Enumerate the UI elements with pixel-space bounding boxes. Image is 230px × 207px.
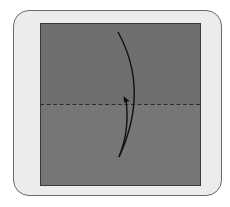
paper-bottom-half xyxy=(40,104,201,186)
fold-diagram xyxy=(0,0,230,207)
paper-top-half xyxy=(40,23,201,104)
